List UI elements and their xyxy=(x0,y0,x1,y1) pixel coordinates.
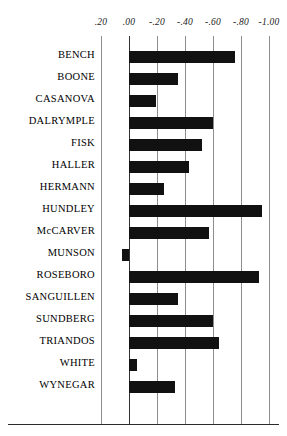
category-label: McCARVER xyxy=(37,225,95,236)
bar xyxy=(129,359,137,371)
category-label: FISK xyxy=(71,137,95,148)
bar xyxy=(129,227,209,239)
category-label: SUNDBERG xyxy=(36,313,95,324)
bar-row: SANGUILLEN xyxy=(0,288,287,310)
bar xyxy=(129,161,189,173)
category-label: BENCH xyxy=(58,49,95,60)
bar-row: ROSEBORO xyxy=(0,266,287,288)
bottom-rule xyxy=(8,424,279,425)
bar xyxy=(129,315,213,327)
bar xyxy=(129,117,213,129)
bar xyxy=(129,139,202,151)
bar xyxy=(129,271,259,283)
bar xyxy=(129,293,178,305)
x-axis-tick-label: -.80 xyxy=(233,17,249,27)
bar-rows: BENCHBOONECASANOVADALRYMPLEFISKHALLERHER… xyxy=(0,36,287,424)
bar-row: HUNDLEY xyxy=(0,200,287,222)
plot-area: BENCHBOONECASANOVADALRYMPLEFISKHALLERHER… xyxy=(0,36,287,424)
bar-row: McCARVER xyxy=(0,222,287,244)
bar xyxy=(129,381,175,393)
bar xyxy=(129,51,235,63)
bar-row: FISK xyxy=(0,134,287,156)
bar-row: TRIANDOS xyxy=(0,332,287,354)
x-axis-tick-label: -.40 xyxy=(177,17,193,27)
category-label: DALRYMPLE xyxy=(29,115,95,126)
x-axis-tick-labels: .20.00-.20-.40-.60-.80-1.00 xyxy=(0,17,287,33)
category-label: WHITE xyxy=(60,357,95,368)
bar-row: CASANOVA xyxy=(0,90,287,112)
bar-row: WYNEGAR xyxy=(0,376,287,398)
x-axis-tick-label: -.60 xyxy=(205,17,221,27)
x-axis-tick-label: -.20 xyxy=(149,17,165,27)
bar xyxy=(122,249,129,261)
bar-row: HERMANN xyxy=(0,178,287,200)
category-label: TRIANDOS xyxy=(40,335,95,346)
bar-row: HALLER xyxy=(0,156,287,178)
bar-row: BENCH xyxy=(0,46,287,68)
bar-row: DALRYMPLE xyxy=(0,112,287,134)
bar-row: MUNSON xyxy=(0,244,287,266)
bar-row: WHITE xyxy=(0,354,287,376)
category-label: ROSEBORO xyxy=(37,269,95,280)
bar-row: SUNDBERG xyxy=(0,310,287,332)
category-label: WYNEGAR xyxy=(39,379,95,390)
category-label: SANGUILLEN xyxy=(26,291,96,302)
category-label: BOONE xyxy=(57,71,95,82)
category-label: MUNSON xyxy=(48,247,95,258)
bar xyxy=(129,95,156,107)
bar xyxy=(129,183,164,195)
bar-chart: .20.00-.20-.40-.60-.80-1.00 BENCHBOONECA… xyxy=(0,0,287,436)
category-label: HALLER xyxy=(52,159,95,170)
bar xyxy=(129,73,178,85)
category-label: HUNDLEY xyxy=(42,203,95,214)
bar xyxy=(129,337,219,349)
x-axis-tick-label: .20 xyxy=(95,17,107,27)
bar-row: BOONE xyxy=(0,68,287,90)
x-axis-tick-label: .00 xyxy=(123,17,135,27)
category-label: HERMANN xyxy=(40,181,95,192)
x-axis-tick-label: -1.00 xyxy=(259,17,280,27)
bar xyxy=(129,205,262,217)
category-label: CASANOVA xyxy=(36,93,95,104)
